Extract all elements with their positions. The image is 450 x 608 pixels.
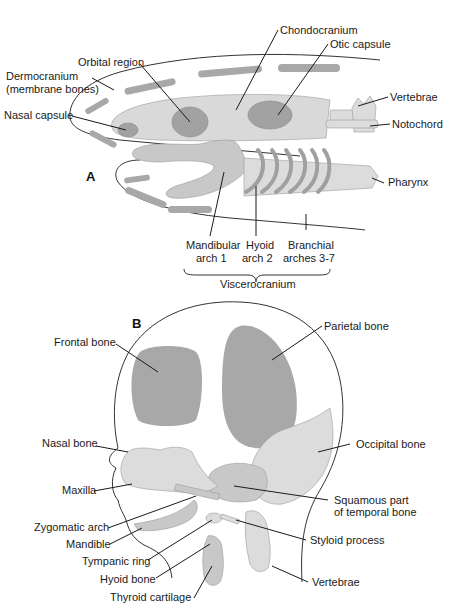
label-nasal-bone: Nasal bone [42, 437, 98, 449]
nasal-maxilla-bones [121, 447, 218, 493]
label-vertebrae-a: Vertebrae [390, 91, 438, 103]
label-notochord: Notochord [392, 118, 443, 130]
hyoid-thyroid-cartilage [203, 536, 224, 586]
label-mandible: Mandible [66, 538, 111, 550]
label-parietal-bone: Parietal bone [324, 320, 389, 332]
label-nasal-capsule: Nasal capsule [4, 109, 73, 121]
vertebrae-b [245, 511, 270, 572]
label-branchial-arches-num: arches 3-7 [283, 252, 335, 264]
label-hyoid-bone: Hyoid bone [100, 573, 156, 585]
label-chondocranium: Chondocranium [280, 24, 358, 36]
label-styloid-process: Styloid process [310, 534, 385, 546]
label-hyoid-arch-num: arch 2 [242, 252, 273, 264]
label-membrane-bones: (membrane bones) [6, 83, 99, 95]
label-otic-capsule: Otic capsule [330, 38, 391, 50]
label-vertebrae-b: Vertebrae [312, 576, 360, 588]
label-viscerocranium: Viscerocranium [220, 278, 296, 290]
panel-a: A Chondocranium Otic capsule Orbital reg… [4, 24, 443, 290]
embryo-skull-diagram: A Chondocranium Otic capsule Orbital reg… [0, 0, 450, 608]
label-hyoid-arch: Hyoid [246, 239, 274, 251]
label-frontal-bone: Frontal bone [54, 336, 116, 348]
label-squamous-part: Squamous part [334, 494, 409, 506]
label-mandibular-arch-num: arch 1 [196, 252, 227, 264]
panel-b: B Frontal bone Parietal bone Nasal bone … [34, 302, 426, 603]
panel-b-label: B [132, 316, 141, 331]
panel-a-label: A [86, 169, 96, 184]
vertebrae-notochord [326, 96, 378, 132]
tympanic-ring [206, 513, 222, 523]
label-thyroid-cartilage: Thyroid cartilage [110, 591, 191, 603]
label-mandibular-arch: Mandibular [186, 239, 241, 251]
label-occipital-bone: Occipital bone [356, 438, 426, 450]
label-pharynx: Pharynx [388, 176, 429, 188]
label-tympanic-ring: Tympanic ring [82, 555, 150, 567]
label-dermocranium: Dermocranium [6, 70, 78, 82]
nasal-capsule [118, 123, 138, 137]
label-orbital-region: Orbital region [78, 56, 144, 68]
label-zygomatic-arch: Zygomatic arch [34, 521, 109, 533]
styloid-process [220, 514, 240, 524]
label-maxilla: Maxilla [62, 484, 97, 496]
chondrocranium [112, 94, 330, 140]
label-temporal-bone: of temporal bone [334, 506, 417, 518]
frontal-bone [131, 346, 202, 426]
label-branchial-arches: Branchial [288, 239, 334, 251]
mandibular-arch [132, 140, 245, 198]
